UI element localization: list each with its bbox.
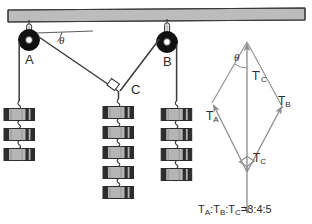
weight-block bbox=[103, 127, 134, 139]
weight-block bbox=[161, 129, 192, 141]
weight-block bbox=[161, 169, 192, 181]
hook-icon bbox=[117, 119, 120, 127]
hook-icon bbox=[117, 139, 120, 147]
weight-stack-c bbox=[103, 99, 134, 199]
weight-block bbox=[103, 107, 134, 119]
hook-icon bbox=[175, 161, 178, 169]
parallelogram-side-left bbox=[212, 42, 247, 103]
tension-ratio-equation: TA:TB:TC=3:4:5 bbox=[198, 204, 272, 215]
weight-block bbox=[161, 149, 192, 161]
hook-icon bbox=[175, 101, 178, 109]
weight-stack-b bbox=[161, 101, 192, 181]
weight-block bbox=[103, 147, 134, 159]
hook-icon bbox=[18, 141, 21, 149]
right-angle-marker-c bbox=[107, 79, 120, 91]
horizontal-reference-line bbox=[36, 31, 93, 33]
hook-icon bbox=[18, 121, 21, 129]
hook-icon bbox=[117, 99, 120, 107]
weight-block bbox=[4, 149, 35, 161]
pulley-b bbox=[157, 20, 178, 53]
hook-icon bbox=[117, 159, 120, 167]
ceiling-beam bbox=[8, 8, 305, 22]
vector-tc-weight-label: TC bbox=[253, 152, 266, 164]
hook-icon bbox=[175, 141, 178, 149]
junction-c-label: C bbox=[131, 83, 140, 96]
weight-block bbox=[103, 187, 134, 199]
pulley-a bbox=[19, 21, 40, 51]
pulley-b-label: B bbox=[163, 55, 172, 68]
vector-tb-label: TB bbox=[278, 95, 291, 107]
rope-a-to-c bbox=[38, 37, 118, 92]
hook-icon bbox=[18, 101, 21, 109]
weight-block bbox=[103, 167, 134, 179]
pulley-a-label: A bbox=[25, 53, 34, 66]
vector-parallelogram bbox=[212, 42, 283, 213]
weight-block bbox=[161, 109, 192, 121]
weight-block bbox=[4, 129, 35, 141]
weight-stack-a bbox=[4, 101, 35, 161]
vector-tc-resultant-label: T′C bbox=[252, 70, 267, 82]
theta-arc-vector bbox=[235, 64, 248, 68]
physics-diagram-svg bbox=[0, 0, 312, 224]
weight-block bbox=[4, 109, 35, 121]
theta-label-vector: θ bbox=[234, 52, 239, 63]
hook-icon bbox=[175, 121, 178, 129]
theta-label-beam: θ bbox=[59, 35, 64, 46]
vector-ta-label: TA bbox=[206, 110, 219, 122]
rope-network bbox=[19, 31, 176, 101]
figure-canvas: A B C θ θ TA TB T′C TC TA:TB:TC=3:4:5 bbox=[0, 0, 312, 224]
hook-icon bbox=[117, 179, 120, 187]
